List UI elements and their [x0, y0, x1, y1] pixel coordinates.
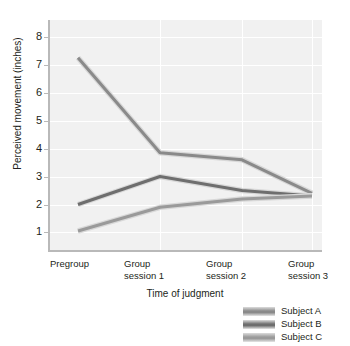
legend-label: Subject B: [281, 319, 322, 329]
x-axis-title: Time of judgment: [48, 288, 322, 299]
legend-swatch: [243, 320, 275, 329]
legend-label: Subject C: [281, 332, 322, 342]
series-line: [78, 58, 312, 194]
legend-item: Subject A: [243, 305, 347, 317]
y-tick-label: 2: [22, 199, 42, 210]
line-chart: Perceived movement (inches) 12345678 Pre…: [0, 0, 350, 346]
plot-area: [48, 20, 322, 252]
y-tick-label: 7: [22, 59, 42, 70]
legend-label: Subject A: [281, 306, 321, 316]
series-line: [78, 177, 312, 205]
legend-swatch: [243, 307, 275, 316]
legend-item: Subject C: [243, 331, 347, 343]
series-line: [78, 196, 312, 231]
y-tick-label: 4: [22, 143, 42, 154]
legend-swatch: [243, 333, 275, 342]
y-axis-title: Perceived movement (inches): [12, 19, 23, 189]
y-tick-label: 8: [22, 31, 42, 42]
x-tick-label: Pregroup: [50, 258, 89, 270]
x-tick-label: Group session 3: [288, 258, 328, 281]
chart-legend: Subject ASubject BSubject C: [243, 305, 347, 344]
y-tick-label: 1: [22, 226, 42, 237]
y-tick-label: 6: [22, 87, 42, 98]
series-lines: [50, 20, 324, 252]
legend-item: Subject B: [243, 318, 347, 330]
y-tick-label: 3: [22, 171, 42, 182]
y-tick-label: 5: [22, 115, 42, 126]
x-tick-label: Group session 1: [124, 258, 164, 281]
x-tick-label: Group session 2: [206, 258, 246, 281]
